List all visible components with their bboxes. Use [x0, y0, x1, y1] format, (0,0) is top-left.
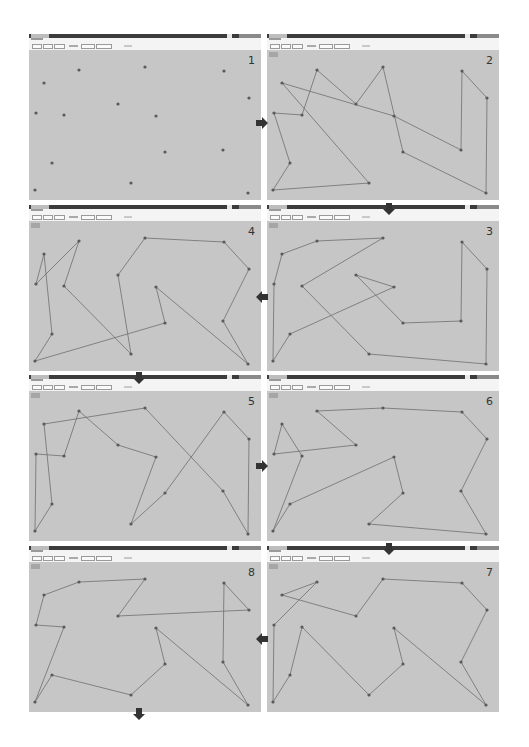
city-node: [247, 437, 250, 440]
city-node: [77, 239, 80, 242]
tour-canvas[interactable]: 6: [267, 391, 499, 541]
toolbar-button[interactable]: [292, 44, 303, 49]
toolbar-button[interactable]: [270, 44, 280, 49]
toolbar-button[interactable]: [81, 215, 95, 220]
tour-edge: [79, 579, 145, 582]
tour-edge: [118, 275, 131, 354]
toolbar-button[interactable]: [32, 385, 42, 390]
toolbar-status: [362, 216, 370, 218]
toolbar-button[interactable]: [54, 556, 65, 561]
toolbar-button[interactable]: [281, 44, 291, 49]
toolbar-button[interactable]: [43, 215, 53, 220]
tour-edge: [369, 493, 403, 524]
city-node: [143, 236, 146, 239]
toolbar-button[interactable]: [43, 44, 53, 49]
city-node: [280, 81, 283, 84]
menu-item[interactable]: [31, 209, 43, 211]
tour-edge: [36, 595, 44, 625]
tour-edge: [156, 287, 165, 323]
menu-item[interactable]: [31, 379, 43, 381]
toolbar-button[interactable]: [96, 385, 112, 390]
toolbar-button[interactable]: [54, 44, 65, 49]
toolbar-status: [124, 216, 132, 218]
city-node: [280, 593, 283, 596]
tour-canvas[interactable]: 5: [29, 391, 261, 541]
toolbar: [267, 382, 499, 391]
toolbar-button[interactable]: [334, 44, 350, 49]
menu-item[interactable]: [269, 209, 281, 211]
toolbar-button[interactable]: [43, 385, 53, 390]
city-node: [459, 148, 462, 151]
tour-canvas[interactable]: 4: [29, 221, 261, 371]
city-node: [221, 319, 224, 322]
tour-edge: [462, 412, 487, 439]
arrow-down-icon: [133, 369, 145, 388]
tour-edge: [44, 582, 79, 595]
tour-canvas[interactable]: 2: [267, 50, 499, 200]
menu-item[interactable]: [31, 550, 43, 552]
city-node: [271, 188, 274, 191]
toolbar-button[interactable]: [292, 556, 303, 561]
city-node: [354, 102, 357, 105]
toolbar-button[interactable]: [270, 215, 280, 220]
toolbar-button[interactable]: [81, 44, 95, 49]
toolbar-button[interactable]: [54, 385, 65, 390]
tour-canvas[interactable]: 1: [29, 50, 261, 200]
toolbar: [29, 382, 261, 391]
city-node: [485, 437, 488, 440]
tour-canvas[interactable]: 7: [267, 562, 499, 712]
city-node: [143, 406, 146, 409]
city-node: [222, 240, 225, 243]
menu-item[interactable]: [269, 379, 281, 381]
step-number: 1: [248, 54, 255, 67]
toolbar-button[interactable]: [319, 385, 333, 390]
toolbar-button[interactable]: [292, 385, 303, 390]
toolbar-button[interactable]: [32, 556, 42, 561]
toolbar-button[interactable]: [270, 556, 280, 561]
toolbar-button[interactable]: [334, 385, 350, 390]
toolbar-button[interactable]: [319, 215, 333, 220]
tour-edge: [248, 439, 249, 534]
toolbar-button[interactable]: [334, 556, 350, 561]
toolbar-button[interactable]: [292, 215, 303, 220]
toolbar-button[interactable]: [54, 215, 65, 220]
menu-item[interactable]: [31, 38, 43, 40]
toolbar-button[interactable]: [96, 556, 112, 561]
city-node: [33, 529, 36, 532]
menu-item[interactable]: [269, 550, 281, 552]
toolbar-button[interactable]: [281, 385, 291, 390]
city-node: [129, 181, 132, 184]
city-node: [221, 489, 224, 492]
tour-edge: [118, 610, 249, 616]
toolbar-button[interactable]: [319, 556, 333, 561]
menu-item[interactable]: [269, 38, 281, 40]
arrow-left-icon: [256, 288, 268, 307]
toolbar-button[interactable]: [96, 44, 112, 49]
tour-edge: [403, 321, 461, 323]
city-node: [33, 188, 36, 191]
tour-edge: [461, 491, 486, 534]
toolbar-button[interactable]: [81, 385, 95, 390]
toolbar-button[interactable]: [319, 44, 333, 49]
toolbar-button[interactable]: [334, 215, 350, 220]
toolbar-button[interactable]: [32, 215, 42, 220]
toolbar-button[interactable]: [81, 556, 95, 561]
city-node: [315, 580, 318, 583]
tour-canvas[interactable]: 8: [29, 562, 261, 712]
toolbar-button[interactable]: [281, 556, 291, 561]
city-node: [247, 267, 250, 270]
city-node: [246, 191, 249, 194]
tour-plot: [267, 391, 499, 541]
toolbar-button[interactable]: [96, 215, 112, 220]
toolbar-button[interactable]: [32, 44, 42, 49]
toolbar-button[interactable]: [43, 556, 53, 561]
toolbar-label: [69, 386, 78, 388]
tour-plot: [267, 50, 499, 200]
toolbar-button[interactable]: [281, 215, 291, 220]
toolbar-button[interactable]: [270, 385, 280, 390]
tour-edge: [223, 491, 248, 534]
city-node: [62, 113, 65, 116]
tour-edge: [282, 582, 317, 595]
tour-edge: [394, 116, 461, 150]
tour-canvas[interactable]: 3: [267, 221, 499, 371]
